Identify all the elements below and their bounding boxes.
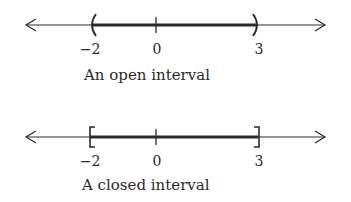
tick-label-3: 3	[255, 154, 264, 168]
open-interval-caption: An open interval	[84, 68, 210, 83]
tick-label-neg2: −2	[80, 42, 101, 56]
tick-label-3: 3	[255, 42, 264, 56]
closed-interval-caption: A closed interval	[82, 178, 210, 193]
number-lines-figure	[0, 0, 351, 202]
tick-label-0: 0	[153, 154, 162, 168]
closed-interval-number-line	[26, 127, 325, 147]
open-interval-number-line	[26, 14, 325, 36]
tick-label-0: 0	[153, 42, 162, 56]
tick-label-neg2: −2	[80, 154, 101, 168]
